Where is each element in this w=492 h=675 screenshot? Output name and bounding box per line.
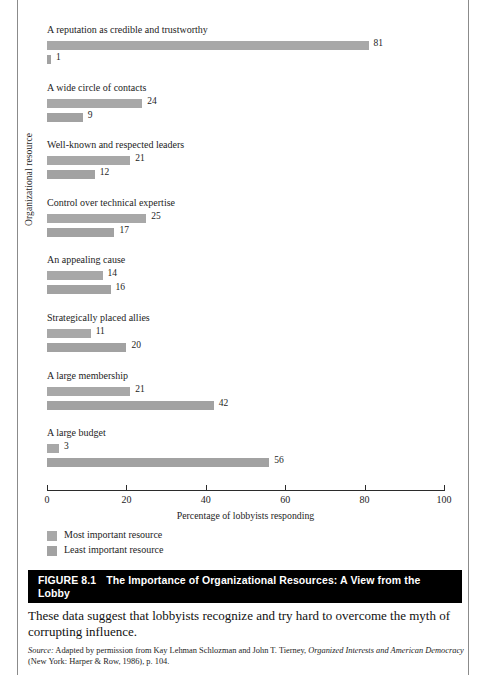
bar-group-label: An appealing cause [47,254,125,265]
bar [47,113,83,122]
bar-group-label: Well-known and respected leaders [47,139,184,150]
bar [47,156,130,165]
bar [47,170,95,179]
x-axis-tick [47,485,48,491]
x-axis-title: Percentage of lobbyists responding [47,510,444,521]
bar [47,401,214,410]
x-axis-tick [126,485,127,491]
bar [47,271,103,280]
bar-row: 9 [47,113,444,122]
bar-value-label: 16 [116,282,126,292]
bar-value-label: 25 [151,211,161,221]
bar-group-label: A large membership [47,370,128,381]
x-axis-line [47,490,444,491]
bar [47,41,369,50]
source-lead: Source: [28,646,54,655]
bar-row: 56 [47,458,444,467]
bar-group-label: A large budget [47,427,106,438]
bar-value-label: 11 [96,326,105,336]
bar-value-label: 14 [108,268,118,278]
figure-page: Organizational resource Percentage of lo… [0,0,492,675]
bar-value-label: 1 [56,52,61,62]
bar-row: 21 [47,387,444,396]
plot-area: Percentage of lobbyists responding A rep… [47,22,456,490]
y-axis-title: Organizational resource [24,76,34,226]
figure-caption-bar: FIGURE 8.1The Importance of Organization… [28,570,462,603]
source-title-2: and American Democracy [376,646,464,655]
x-axis-tick [444,485,445,491]
bar-group-label: A wide circle of contacts [47,82,146,93]
x-axis-tick-label: 20 [121,494,131,505]
bar-value-label: 20 [131,340,141,350]
bar-row: 25 [47,214,444,223]
x-axis-tick-label: 80 [360,494,370,505]
bar-value-label: 12 [100,167,110,177]
bar-row: 17 [47,228,444,237]
bar-value-label: 42 [219,398,229,408]
bar-row: 42 [47,401,444,410]
x-axis-tick-label: 100 [437,494,452,505]
legend-item-most: Most important resource [47,529,347,543]
bar-value-label: 21 [135,384,145,394]
x-axis-tick [206,485,207,491]
bar-row: 3 [47,444,444,453]
legend-label-least: Least important resource [64,544,163,555]
bar [47,458,269,467]
figure-caption-line-1: FIGURE 8.1The Importance of Organization… [38,574,452,587]
bar [47,343,126,352]
page-rule-right [468,0,469,675]
legend-label-most: Most important resource [64,529,162,540]
bar-row: 21 [47,156,444,165]
x-axis-tick [365,485,366,491]
bar [47,285,111,294]
legend-swatch-most-icon [47,531,57,541]
bar [47,99,142,108]
bar-row: 14 [47,271,444,280]
bar-row: 1 [47,55,444,64]
legend-swatch-least-icon [47,546,57,556]
x-axis-tick-label: 40 [201,494,211,505]
bar-chart: Organizational resource Percentage of lo… [24,22,456,522]
chart-legend: Most important resource Least important … [47,529,347,559]
bar [47,228,114,237]
page-rule-left [17,0,18,675]
bar-group-label: Strategically placed allies [47,312,150,323]
figure-caption-line-2: Lobby [38,587,452,600]
x-axis-tick [285,485,286,491]
bar-row: 11 [47,329,444,338]
bar-group-label: A reputation as credible and trustworthy [47,24,208,35]
figure-source: Source: Adapted by permission from Kay L… [28,645,466,667]
bar-row: 81 [47,41,444,50]
bar-row: 24 [47,99,444,108]
bar-value-label: 24 [147,96,157,106]
bar [47,55,51,64]
figure-title: The Importance of Organizational Resourc… [106,574,420,586]
bar-row: 12 [47,170,444,179]
bar [47,387,130,396]
source-title-1: Organized Interests [308,646,374,655]
bar-value-label: 3 [64,441,69,451]
bar [47,444,59,453]
bar-value-label: 56 [274,455,284,465]
bar-value-label: 21 [135,153,145,163]
bar-value-label: 17 [119,225,129,235]
figure-blurb: These data suggest that lobbyists recogn… [28,608,466,640]
bar-row: 16 [47,285,444,294]
bar-row: 20 [47,343,444,352]
bar [47,329,91,338]
bar-group-label: Control over technical expertise [47,197,175,208]
bar-value-label: 81 [374,38,384,48]
bar-value-label: 9 [88,110,93,120]
source-part2: (New York: Harper & Row, 1986), p. 104. [28,657,169,666]
legend-item-least: Least important resource [47,544,347,558]
figure-number: FIGURE 8.1 [38,574,96,586]
x-axis-tick-label: 0 [45,494,50,505]
source-part1: Adapted by permission from Kay Lehman Sc… [54,646,309,655]
x-axis-tick-label: 60 [280,494,290,505]
bar [47,214,146,223]
